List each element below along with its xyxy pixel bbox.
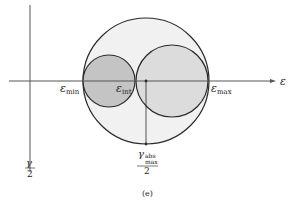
horizontal-axis-label: ε (280, 75, 286, 88)
figure-caption: (e) (142, 189, 153, 198)
eps-max-label: εmax (211, 82, 232, 96)
svg-text:γ: γ (26, 157, 32, 168)
svg-text:max: max (145, 158, 158, 165)
svg-text:2: 2 (27, 169, 33, 179)
vertical-axis-label: γ 2 (25, 157, 35, 179)
eps-min-label: εmin (60, 82, 80, 96)
svg-text:γ: γ (138, 148, 144, 159)
center-point (145, 80, 148, 83)
svg-text:2: 2 (144, 166, 150, 176)
gamma-abs-max-label: γ abs max 2 (137, 148, 158, 176)
axis-arrow-icon (270, 79, 276, 83)
bottom-point (145, 143, 148, 146)
mohr-circle-diagram: ε εmin εint εmax γ abs max 2 γ 2 (e) (0, 0, 296, 204)
